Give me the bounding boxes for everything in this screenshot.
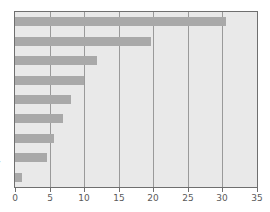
bar-chart: y 05101520253035 xyxy=(0,0,270,212)
x-tick-mark xyxy=(188,188,189,192)
bar xyxy=(15,134,54,143)
x-tick-mark xyxy=(119,188,120,192)
bar xyxy=(15,17,226,26)
x-tick-label: 10 xyxy=(78,193,89,203)
bar xyxy=(15,153,47,162)
bar xyxy=(15,37,151,46)
x-tick-label: 5 xyxy=(47,193,53,203)
x-tick-mark xyxy=(50,188,51,192)
x-tick-label: 30 xyxy=(216,193,227,203)
gridline xyxy=(188,12,189,187)
plot-area xyxy=(14,11,258,188)
x-tick-mark xyxy=(222,188,223,192)
bar xyxy=(15,76,84,85)
x-tick-mark xyxy=(84,188,85,192)
x-tick-label: 0 xyxy=(12,193,18,203)
gridline xyxy=(222,12,223,187)
bar xyxy=(15,114,63,123)
x-tick-mark xyxy=(257,188,258,192)
x-tick-label: 25 xyxy=(182,193,193,203)
x-axis: 05101520253035 xyxy=(14,188,258,210)
bar xyxy=(15,173,22,182)
x-tick-label: 20 xyxy=(147,193,158,203)
x-tick-label: 15 xyxy=(113,193,124,203)
x-tick-mark xyxy=(153,188,154,192)
gridline xyxy=(153,12,154,187)
x-tick-mark xyxy=(15,188,16,192)
x-tick-label: 35 xyxy=(251,193,262,203)
bar xyxy=(15,95,71,104)
bar xyxy=(15,56,97,65)
y-axis-label: y xyxy=(0,152,10,176)
